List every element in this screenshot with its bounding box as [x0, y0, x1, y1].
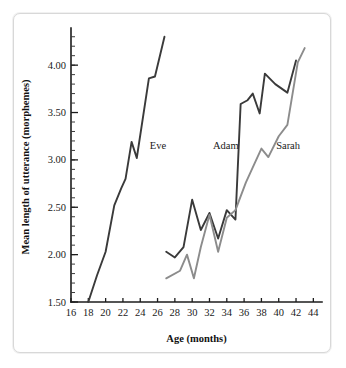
x-axis-title: Age (months)	[166, 333, 227, 345]
x-tick-label: 44	[308, 307, 319, 318]
x-tick-label: 28	[170, 307, 181, 318]
y-tick-label: 4.00	[48, 60, 66, 71]
x-tick-label: 24	[135, 307, 146, 318]
x-tick-label: 20	[100, 307, 111, 318]
x-tick-label: 36	[239, 307, 250, 318]
x-tick-label: 32	[204, 307, 215, 318]
y-tick-label: 2.50	[48, 202, 66, 213]
x-tick-label: 38	[256, 307, 267, 318]
series-line-adam	[166, 60, 296, 257]
y-tick-label: 3.00	[48, 154, 66, 165]
y-tick-label: 1.50	[48, 297, 66, 308]
series-label-eve: Eve	[150, 140, 167, 151]
mlu-line-chart: 1.502.002.503.003.504.001618202224262830…	[14, 14, 332, 354]
y-axis-title: Mean length of utterance (morphemes)	[20, 79, 32, 254]
x-tick-label: 30	[187, 307, 198, 318]
y-tick-label: 3.50	[48, 107, 66, 118]
y-tick-label: 2.00	[48, 249, 66, 260]
x-tick-label: 16	[66, 307, 77, 318]
x-tick-label: 40	[273, 307, 284, 318]
series-line-eve	[88, 37, 164, 302]
x-tick-label: 34	[222, 307, 233, 318]
series-line-sarah	[166, 48, 304, 278]
x-tick-label: 22	[118, 307, 128, 318]
x-tick-label: 26	[152, 307, 163, 318]
series-label-adam: Adam	[213, 140, 239, 151]
x-tick-label: 42	[291, 307, 302, 318]
figure-frame: 1.502.002.503.003.504.001618202224262830…	[13, 13, 331, 353]
x-tick-label: 18	[83, 307, 94, 318]
series-label-sarah: Sarah	[276, 140, 301, 151]
